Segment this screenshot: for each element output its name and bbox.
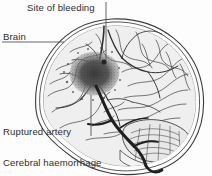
label-brain: Brain [3, 31, 26, 42]
label-site-of-bleeding: Site of bleeding [27, 2, 95, 13]
label-cerebral-haemorrhage: Cerebral haemorrhage [3, 157, 102, 168]
bleeding-point [101, 59, 106, 64]
cerebral-haemorrhage-figure: Site of bleeding Brain Ruptured artery C… [0, 0, 212, 176]
label-ruptured-artery: Ruptured artery [3, 126, 71, 137]
anatomy-illustration [0, 0, 212, 176]
